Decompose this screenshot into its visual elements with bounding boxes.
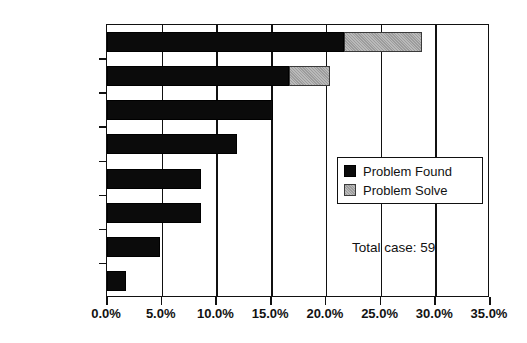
chart-figure: Problem AProblem BProblem CProblem DProb… <box>0 0 527 343</box>
y-axis-tick <box>99 229 106 230</box>
y-axis-tick <box>99 126 106 127</box>
stacked-bar <box>107 32 422 52</box>
x-axis-label: 35.0% <box>454 306 524 321</box>
stacked-bar <box>107 169 201 189</box>
bar-segment-problem-found <box>107 237 160 257</box>
stacked-bar <box>107 271 126 291</box>
bar-segment-problem-found <box>107 66 289 86</box>
bar-segment-problem-found <box>107 271 126 291</box>
bar-segment-problem-found <box>107 100 273 120</box>
bar-segment-problem-found <box>107 203 201 223</box>
bar-segment-problem-found <box>107 32 344 52</box>
stacked-bar <box>107 134 237 154</box>
y-axis-tick <box>99 161 106 162</box>
bar-segment-problem-solve <box>289 66 331 86</box>
x-axis-tick <box>270 297 272 305</box>
black-square-icon <box>344 165 356 177</box>
total-case-annotation: Total case: 59 <box>352 240 435 255</box>
x-axis-tick <box>215 297 217 305</box>
x-axis-tick <box>161 297 163 305</box>
legend-item-problem-solve: Problem Solve <box>344 181 476 199</box>
legend-item-problem-found: Problem Found <box>344 162 476 180</box>
y-axis-tick <box>99 195 106 196</box>
stacked-bar <box>107 237 160 257</box>
stacked-bar <box>107 203 201 223</box>
x-axis-tick <box>106 297 108 305</box>
gray-square-icon <box>344 184 356 196</box>
bar-segment-problem-solve <box>344 32 422 52</box>
stacked-bar <box>107 100 273 120</box>
y-axis-tick <box>99 58 106 59</box>
x-axis-tick <box>434 297 436 305</box>
legend-label-problem-solve: Problem Solve <box>363 183 448 198</box>
y-axis-tick <box>99 92 106 93</box>
stacked-bar <box>107 66 330 86</box>
x-axis-tick <box>489 297 491 305</box>
x-axis-tick <box>380 297 382 305</box>
y-axis-tick <box>99 263 106 264</box>
bar-segment-problem-found <box>107 134 237 154</box>
legend-label-problem-found: Problem Found <box>363 164 452 179</box>
legend: Problem Found Problem Solve <box>337 157 483 204</box>
bar-segment-problem-found <box>107 169 201 189</box>
x-axis-tick <box>325 297 327 305</box>
